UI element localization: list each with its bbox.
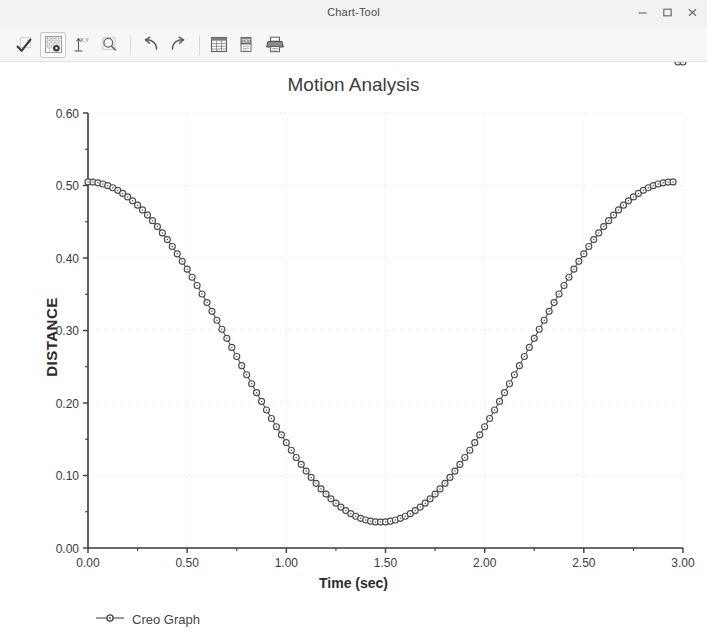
close-button[interactable]	[685, 4, 699, 20]
minimize-button[interactable]	[635, 4, 649, 20]
plot-svg[interactable]: 0.000.100.200.300.400.500.600.000.501.00…	[0, 62, 707, 592]
xy-axis-icon: X,Y	[72, 35, 91, 54]
svg-text:0.50: 0.50	[56, 179, 80, 193]
toolbar-group-output: TXT	[206, 32, 290, 58]
maximize-button[interactable]	[660, 4, 674, 20]
printer-icon	[265, 35, 285, 54]
redo-button[interactable]	[165, 32, 191, 58]
window-title: Chart-Tool	[0, 6, 707, 18]
chart-legend: Creo Graph	[95, 610, 200, 628]
chart-tool-window: Chart-Tool	[0, 0, 707, 644]
undo-button[interactable]	[137, 32, 163, 58]
toolbar-group-history	[137, 32, 193, 58]
svg-text:0.40: 0.40	[56, 252, 80, 266]
toolbar-separator-1	[130, 35, 131, 55]
chart-canvas: Motion Analysis DISTANCE Time (sec) 0.00…	[0, 62, 707, 644]
accept-checkmark-button[interactable]	[12, 32, 38, 58]
gridlines	[88, 113, 683, 548]
redo-arrow-icon	[168, 35, 189, 54]
svg-text:3.00: 3.00	[671, 556, 695, 570]
print-button[interactable]	[262, 32, 288, 58]
svg-text:TXT: TXT	[242, 39, 251, 44]
svg-text:2.50: 2.50	[572, 556, 596, 570]
tick-marks: 0.000.100.200.300.400.500.600.000.501.00…	[56, 107, 695, 571]
legend-marker-icon	[95, 610, 125, 628]
legend-entry-label: Creo Graph	[132, 612, 200, 627]
title-bar: Chart-Tool	[0, 0, 707, 29]
svg-text:0.20: 0.20	[56, 397, 80, 411]
svg-text:0.10: 0.10	[56, 469, 80, 483]
zoom-region-button[interactable]	[96, 32, 122, 58]
svg-text:0.00: 0.00	[56, 542, 80, 556]
undo-arrow-icon	[140, 35, 161, 54]
svg-text:0.30: 0.30	[56, 324, 80, 338]
toolbar-group-primary: X,Y	[12, 32, 124, 58]
toolbar-separator-2	[199, 35, 200, 55]
axes	[88, 113, 683, 548]
svg-text:1.50: 1.50	[374, 556, 398, 570]
svg-text:0.00: 0.00	[76, 556, 100, 570]
svg-text:2.00: 2.00	[473, 556, 497, 570]
svg-text:0.60: 0.60	[56, 107, 80, 121]
grid-table-icon	[44, 35, 63, 54]
svg-text:0.50: 0.50	[175, 556, 199, 570]
text-export-icon: TXT	[238, 35, 257, 54]
grid-data-button[interactable]	[40, 32, 66, 58]
axis-settings-button[interactable]: X,Y	[68, 32, 94, 58]
toolbar: X,Y	[0, 28, 707, 62]
checkmark-icon	[15, 35, 35, 55]
spreadsheet-icon	[209, 35, 229, 54]
export-text-button[interactable]: TXT	[234, 32, 260, 58]
svg-text:X,Y: X,Y	[80, 37, 89, 43]
svg-text:1.00: 1.00	[275, 556, 299, 570]
table-view-button[interactable]	[206, 32, 232, 58]
window-controls	[635, 4, 699, 20]
magnifier-icon	[100, 35, 119, 54]
